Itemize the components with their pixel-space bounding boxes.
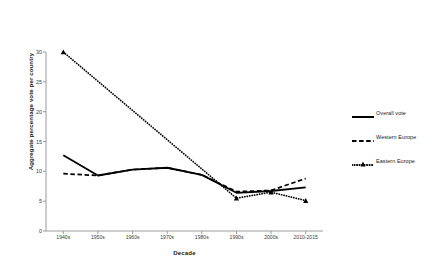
legend-swatch-dotted-line-triangle-icon — [352, 156, 374, 166]
chart-legend: Overall vote Western Europe Eastern Euro… — [352, 101, 434, 173]
legend-item-western-europe[interactable]: Western Europe — [352, 125, 434, 149]
legend-label-overall-vote: Overall vote — [376, 110, 406, 116]
legend-swatch-dashed-line-icon — [352, 132, 374, 142]
legend-swatch-solid-line-icon — [352, 108, 374, 118]
legend-label-western-europe: Western Europe — [376, 134, 416, 140]
series-line-overall-vote — [63, 155, 305, 193]
y-axis-title: Aggregate percentage vote per country — [27, 12, 34, 212]
series-line-eastern-europe — [63, 52, 305, 201]
series-markers-eastern-europe — [61, 49, 309, 203]
legend-label-eastern-europe: Eastern Europe — [376, 158, 415, 164]
x-axis-title: Decade — [46, 249, 323, 256]
chart-figure: 0 5 10 15 20 25 30 1940s 1950s 1960s 197… — [0, 0, 435, 278]
legend-item-overall-vote[interactable]: Overall vote — [352, 101, 434, 125]
x-tick-2010-2015: 2010-2015 — [283, 234, 329, 240]
marker-eastern-europe-1940s — [61, 49, 66, 54]
legend-item-eastern-europe[interactable]: Eastern Europe — [352, 149, 434, 173]
y-tick-0: 0 — [16, 228, 42, 234]
